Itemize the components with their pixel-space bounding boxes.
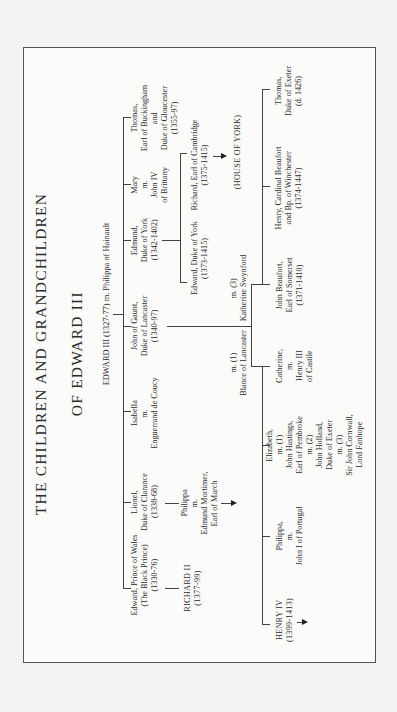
tick-john-beaufort bbox=[262, 284, 270, 285]
child-mary: Mary m. John IV of Brittany bbox=[130, 167, 170, 203]
marriage-swynford: m. (3) Katherine Swynford bbox=[229, 255, 249, 322]
chart-title: THE CHILDREN AND GRANDCHILDREN OF EDWARD… bbox=[14, 193, 86, 515]
blanche-connector bbox=[251, 366, 262, 367]
tick-catherine bbox=[262, 366, 270, 367]
root-connector bbox=[113, 314, 123, 315]
grandchild-henry-beaufort: Henry, Cardinal Beaufort and Bp. of Winc… bbox=[274, 147, 304, 230]
grandchild-edward-duke-of-york: Edward, Duke of York (1373-1415) bbox=[190, 221, 210, 295]
arrow-right-icon bbox=[302, 619, 308, 625]
child-lionel: Lionel, Duke of Clarance (1338-68) bbox=[130, 473, 160, 531]
grandchild-henry-iv: HENRY IV (1399-1413) bbox=[275, 598, 295, 642]
grandchild-elizabeth: Elizabeth, m. (1) John Hastings, Earl of… bbox=[265, 414, 365, 476]
grandchild-catherine: Catherine, m. Henry III of Castile bbox=[275, 349, 315, 383]
connector-philippa-clarence bbox=[165, 503, 179, 504]
tick-philippa bbox=[262, 536, 270, 537]
connector-york bbox=[162, 240, 180, 241]
arrow-right-icon bbox=[231, 500, 237, 506]
tick-thomas-exeter bbox=[262, 89, 270, 90]
house-of-york-label: (HOUSE OF YORK) bbox=[233, 115, 243, 190]
children-bracket bbox=[123, 117, 124, 589]
tick-edward-york bbox=[180, 282, 187, 283]
title-line-2: OF EDWARD III bbox=[68, 292, 85, 417]
tick-henry-beaufort bbox=[262, 186, 270, 187]
child-thomas-gloucester: Thomas, Earl of Buckingham and Duke of G… bbox=[130, 85, 180, 151]
title-line-1: THE CHILDREN AND GRANDCHILDREN bbox=[32, 193, 49, 515]
child-isabella: Isabella m. Enguerrand de Coucy bbox=[130, 377, 160, 448]
marriage-blanche: m. (1) Blance of Lancaster bbox=[229, 330, 249, 395]
blanche-children-bracket bbox=[262, 366, 263, 625]
tick-richard-cambridge bbox=[180, 153, 187, 154]
swynford-connector bbox=[251, 284, 262, 285]
york-bracket bbox=[180, 153, 181, 283]
root-edward-iii: EDWARD III (1327-77) m. Philippa of Hain… bbox=[102, 223, 112, 386]
arrow-right-icon bbox=[221, 153, 227, 159]
child-edmund: Edmund, Duke of York (1342-1402) bbox=[130, 218, 160, 262]
connector-richard-ii bbox=[165, 588, 179, 589]
tick-henry-iv bbox=[262, 624, 270, 625]
grandchild-thomas-exeter: Thomas, Duke of Exeter (d. 1426) bbox=[274, 66, 304, 116]
child-edward-black-prince: Edward, Prince of Wales (The Black Princ… bbox=[130, 534, 160, 615]
grandchild-john-beaufort: John Beaufort, Earl of Somerset (1371-14… bbox=[275, 257, 305, 312]
grandchild-richard-ii: RICHARD II (1377-99) bbox=[183, 564, 203, 611]
child-john-of-gaunt: John of Gaunt, Duke of Lancaster (1340-9… bbox=[130, 296, 160, 356]
grandchild-richard-cambridge: Richard, Earl of Cambridge (1375-1415) bbox=[190, 120, 210, 211]
grandchild-philippa-mortimer: Philippa m. Edmund Mortimer, Earl of Mar… bbox=[180, 472, 220, 535]
lancaster-connector bbox=[167, 326, 251, 327]
marriage-split bbox=[251, 284, 252, 366]
grandchild-philippa-portugal: Philippa, m. John I of Portugal bbox=[275, 507, 305, 566]
